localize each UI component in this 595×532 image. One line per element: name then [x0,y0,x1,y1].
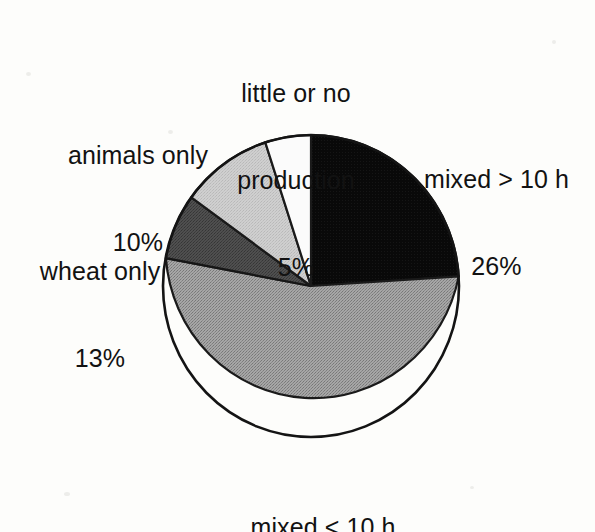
label-value: 26% [404,252,589,281]
scan-speckle [470,486,474,489]
label-value: 13% [16,344,184,373]
label-line: mixed < 10 h [228,513,418,532]
scan-speckle [552,40,556,44]
scan-speckle [26,72,31,76]
pie-label-mixed-lt-10h: mixed < 10 h 46% [228,455,418,532]
label-line: mixed > 10 h [404,165,589,194]
pie-label-wheat-only: wheat only 13% [16,199,184,431]
label-line: wheat only [16,257,184,286]
label-line: animals only [48,141,228,170]
scan-speckle [64,492,70,496]
pie-chart-figure: little or no production 5% animals only … [0,0,595,532]
pie-label-mixed-gt-10h: mixed > 10 h 26% [404,107,589,339]
